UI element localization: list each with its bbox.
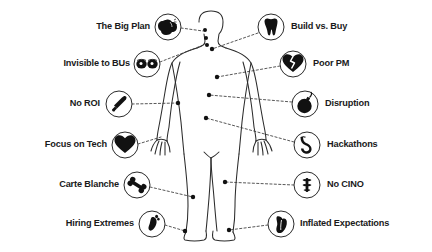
label-invisible-to-bus[interactable]: Invisible to BUs xyxy=(0,59,130,68)
label-carte-blanche[interactable]: Carte Blanche xyxy=(0,180,119,189)
body-map-diagram: The Big Plan Invisible to BUs No ROI Foc… xyxy=(0,0,432,252)
anchor-head-low xyxy=(205,43,209,47)
label-focus-on-tech[interactable]: Focus on Tech xyxy=(0,140,107,149)
body-anchor-dots xyxy=(176,28,231,233)
icon-badge-disruption[interactable] xyxy=(292,91,318,117)
anchor-hip xyxy=(223,180,227,184)
icon-badge-invisible-to-bus[interactable] xyxy=(134,51,160,77)
icon-badge-poor-pm[interactable] xyxy=(280,51,306,77)
icon-badge-inflated-expectations[interactable] xyxy=(268,211,294,237)
anchor-ankle-left xyxy=(183,229,187,233)
label-build-vs-buy[interactable]: Build vs. Buy xyxy=(291,22,347,31)
anchor-neck xyxy=(210,47,214,51)
icon-badge-no-cino[interactable] xyxy=(294,172,320,198)
anchor-chest-left xyxy=(215,75,219,79)
connector-the-big-plan xyxy=(181,28,203,31)
label-no-roi[interactable]: No ROI xyxy=(0,99,100,108)
icon-badge-build-vs-buy[interactable] xyxy=(258,14,284,40)
icon-badge-carte-blanche[interactable] xyxy=(124,172,150,198)
label-disruption[interactable]: Disruption xyxy=(325,99,369,108)
icon-badge-hiring-extremes[interactable] xyxy=(139,211,165,237)
anchor-arm-left xyxy=(176,101,180,105)
spine-icon xyxy=(303,178,312,192)
icon-badge-hackathons[interactable] xyxy=(294,132,320,158)
connector-no-cino xyxy=(225,182,294,185)
anchor-abdomen xyxy=(204,116,208,120)
diagram-canvas xyxy=(0,0,432,252)
label-the-big-plan[interactable]: The Big Plan xyxy=(0,22,150,31)
label-no-cino[interactable]: No CINO xyxy=(327,180,364,189)
connector-hiring-extremes xyxy=(165,225,185,231)
connector-hackathons xyxy=(206,118,294,142)
label-hackathons[interactable]: Hackathons xyxy=(327,140,378,149)
anchor-head-mid xyxy=(204,36,208,40)
human-figure-silhouette xyxy=(151,11,272,241)
icon-badge-focus-on-tech[interactable] xyxy=(112,132,138,158)
connector-carte-blanche xyxy=(150,187,193,197)
label-hiring-extremes[interactable]: Hiring Extremes xyxy=(0,219,134,228)
anchor-knee-left xyxy=(191,195,195,199)
label-inflated-expectations[interactable]: Inflated Expectations xyxy=(300,219,389,228)
label-poor-pm[interactable]: Poor PM xyxy=(313,59,349,68)
connector-inflated-expectations xyxy=(229,225,268,230)
icon-badge-no-roi[interactable] xyxy=(106,91,132,117)
connector-no-roi xyxy=(132,103,178,104)
anchor-ankle-right xyxy=(227,228,231,232)
anchor-head-top xyxy=(203,28,207,32)
anchor-chest-right xyxy=(207,93,211,97)
icon-badge-the-big-plan[interactable] xyxy=(155,14,181,40)
